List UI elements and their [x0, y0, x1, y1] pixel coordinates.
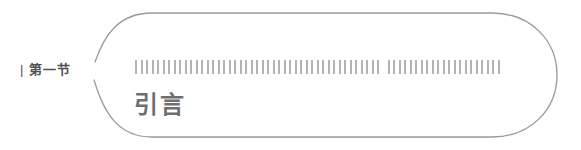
tick-mark: [344, 60, 346, 74]
tick-mark: [234, 60, 236, 74]
tick-mark: [207, 60, 209, 74]
tick-mark: [256, 60, 258, 74]
tick-mark: [355, 60, 357, 74]
tick-mark: [223, 60, 225, 74]
tick-mark: [339, 60, 341, 74]
tick-mark: [399, 60, 401, 74]
tick-group: [388, 60, 504, 74]
tick-mark: [273, 60, 275, 74]
tick-mark: [190, 60, 192, 74]
tick-mark: [196, 60, 198, 74]
tick-mark: [415, 60, 417, 74]
tick-mark: [426, 60, 428, 74]
tick-mark: [361, 60, 363, 74]
tick-mark: [437, 60, 439, 74]
tick-mark: [498, 60, 500, 74]
tick-mark: [262, 60, 264, 74]
tick-mark: [492, 60, 494, 74]
tick-mark: [366, 60, 368, 74]
tick-mark: [410, 60, 412, 74]
tick-mark: [393, 60, 395, 74]
tick-mark: [251, 60, 253, 74]
tick-mark: [448, 60, 450, 74]
tick-mark: [404, 60, 406, 74]
tick-mark: [470, 60, 472, 74]
tick-mark: [377, 60, 379, 74]
tick-mark: [240, 60, 242, 74]
tick-mark: [421, 60, 423, 74]
tick-mark: [218, 60, 220, 74]
tick-mark: [278, 60, 280, 74]
tick-mark: [454, 60, 456, 74]
tick-mark: [311, 60, 313, 74]
tick-mark: [328, 60, 330, 74]
tick-mark: [174, 60, 176, 74]
tick-mark: [295, 60, 297, 74]
tick-mark: [476, 60, 478, 74]
tick-mark: [146, 60, 148, 74]
tick-mark: [372, 60, 374, 74]
tick-mark: [267, 60, 269, 74]
tick-mark: [135, 60, 137, 74]
tick-mark: [141, 60, 143, 74]
tick-mark: [388, 60, 390, 74]
chapter-bubble-outline: [0, 0, 581, 150]
tick-mark: [152, 60, 154, 74]
tick-mark: [163, 60, 165, 74]
tick-mark: [168, 60, 170, 74]
tick-mark: [229, 60, 231, 74]
tick-mark: [212, 60, 214, 74]
tick-mark: [284, 60, 286, 74]
chapter-title: 引言: [134, 91, 186, 119]
tick-mark: [350, 60, 352, 74]
tick-mark: [432, 60, 434, 74]
tick-mark: [317, 60, 319, 74]
tick-mark: [443, 60, 445, 74]
tick-mark: [201, 60, 203, 74]
tick-mark: [306, 60, 308, 74]
page: |第一节 引言: [0, 0, 581, 150]
tick-mark: [459, 60, 461, 74]
tick-group: [135, 60, 383, 74]
tick-mark: [333, 60, 335, 74]
tick-mark: [481, 60, 483, 74]
tick-mark: [487, 60, 489, 74]
tick-mark: [179, 60, 181, 74]
tick-mark: [465, 60, 467, 74]
tick-mark: [300, 60, 302, 74]
tick-mark: [185, 60, 187, 74]
tick-mark: [289, 60, 291, 74]
redacted-ticks: [135, 60, 508, 74]
tick-mark: [322, 60, 324, 74]
tick-mark: [157, 60, 159, 74]
tick-mark: [245, 60, 247, 74]
